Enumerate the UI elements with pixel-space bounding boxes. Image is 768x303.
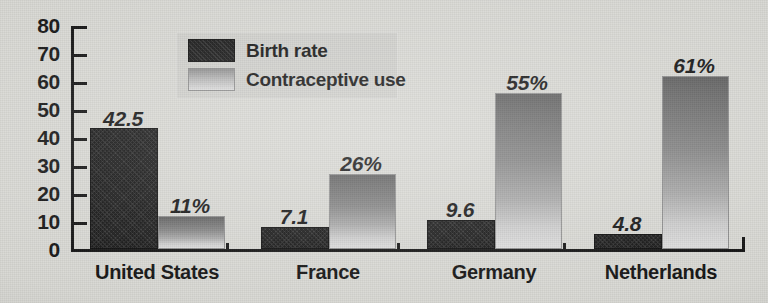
y-tick-label-0: 0 — [12, 239, 60, 260]
value-label-contraceptive-use-netherlands: 61% — [661, 55, 727, 76]
y-tick-label-70: 70 — [12, 43, 60, 64]
bar-birth-rate-germany — [427, 220, 495, 249]
y-tick-20 — [74, 194, 87, 197]
legend-item-contraceptive-use: Contraceptive use — [188, 68, 406, 91]
chart-legend: Birth rate Contraceptive use — [176, 32, 398, 99]
value-label-contraceptive-use-united-states: 11% — [157, 195, 223, 216]
y-tick-40 — [74, 138, 87, 141]
bar-chart: 80 70 60 50 40 30 20 10 0 42.5 11% Unite… — [0, 0, 768, 303]
value-label-contraceptive-use-germany: 55% — [494, 72, 560, 93]
y-tick-label-40: 40 — [12, 127, 60, 148]
value-label-birth-rate-united-states: 42.5 — [90, 108, 156, 129]
y-tick-30 — [74, 166, 87, 169]
bar-contraceptive-use-netherlands — [662, 76, 729, 249]
y-tick-label-80: 80 — [12, 15, 60, 36]
category-label-germany: Germany — [413, 262, 575, 282]
category-label-united-states: United States — [76, 262, 238, 282]
category-label-france: France — [247, 262, 409, 282]
x-axis-end-cap — [742, 237, 745, 252]
y-tick-50 — [74, 110, 87, 113]
legend-label-contraceptive-use: Contraceptive use — [246, 70, 406, 89]
y-tick-label-30: 30 — [12, 155, 60, 176]
value-label-contraceptive-use-france: 26% — [328, 153, 394, 174]
bar-contraceptive-use-france — [329, 174, 396, 249]
y-tick-label-50: 50 — [12, 99, 60, 120]
bar-contraceptive-use-germany — [495, 93, 562, 249]
bar-birth-rate-netherlands — [594, 234, 662, 249]
y-tick-label-10: 10 — [12, 211, 60, 232]
y-tick-label-60: 60 — [12, 71, 60, 92]
y-tick-label-20: 20 — [12, 183, 60, 204]
legend-label-birth-rate: Birth rate — [246, 41, 327, 60]
bar-contraceptive-use-united-states — [158, 216, 225, 249]
y-tick-60 — [74, 82, 87, 85]
legend-swatch-contraceptive-use-icon — [188, 68, 235, 91]
value-label-birth-rate-france: 7.1 — [261, 206, 327, 227]
category-label-netherlands: Netherlands — [580, 262, 742, 282]
bar-birth-rate-united-states — [90, 128, 158, 249]
legend-swatch-birth-rate-icon — [188, 39, 235, 62]
y-tick-80 — [74, 26, 87, 29]
y-tick-10 — [74, 222, 87, 225]
bar-birth-rate-france — [261, 227, 329, 249]
y-tick-70 — [74, 54, 87, 57]
value-label-birth-rate-germany: 9.6 — [427, 199, 493, 220]
x-axis-line — [71, 249, 745, 252]
legend-item-birth-rate: Birth rate — [188, 39, 327, 62]
value-label-birth-rate-netherlands: 4.8 — [594, 213, 660, 234]
